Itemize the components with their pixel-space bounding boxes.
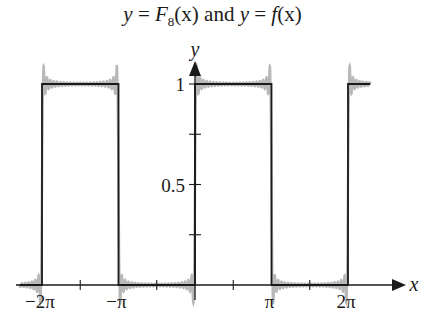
x-axis-arrow-icon — [392, 279, 406, 291]
axis-labels: −2π−ππ2π10.5xy — [25, 38, 418, 312]
y-tick-label: 0.5 — [161, 175, 185, 196]
x-tick-label: 2π — [336, 291, 356, 312]
x-axis-label: x — [409, 273, 419, 295]
x-tick-label: −π — [106, 291, 127, 312]
plot-area: −2π−ππ2π10.5xy — [0, 0, 425, 335]
y-axis-arrow-icon — [189, 61, 201, 76]
x-tick-label: π — [265, 291, 275, 312]
y-tick-label: 1 — [176, 74, 186, 95]
y-axis-label: y — [189, 38, 200, 61]
x-tick-label: −2π — [25, 291, 55, 312]
